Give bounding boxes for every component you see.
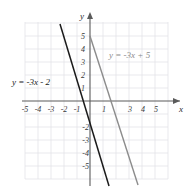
y-tick-4: 4 — [81, 45, 85, 54]
x-axis-label: x — [178, 104, 183, 114]
y-tick--4: -4 — [82, 149, 89, 158]
y-tick-3: 3 — [80, 58, 85, 67]
y-tick--2: -2 — [82, 123, 89, 132]
y-tick-1: 1 — [81, 84, 85, 93]
graph-canvas: x y -5 -4 -3 -2 -1 1 3 4 5 5 4 3 2 1 -2 … — [0, 0, 194, 192]
x-tick-3: 3 — [127, 105, 132, 114]
equation-label-gray-line: y = -3x + 5 — [108, 50, 151, 60]
y-tick--3: -3 — [82, 136, 89, 145]
x-tick--4: -4 — [35, 105, 42, 114]
y-tick-5: 5 — [81, 32, 85, 41]
x-tick--2: -2 — [61, 105, 68, 114]
figure-background — [0, 0, 194, 192]
x-tick--1: -1 — [74, 105, 81, 114]
x-tick-5: 5 — [154, 105, 158, 114]
x-tick--5: -5 — [22, 105, 29, 114]
x-tick-1: 1 — [102, 105, 106, 114]
equation-label-black-line: y = -3x - 2 — [11, 77, 51, 87]
x-tick--3: -3 — [48, 105, 55, 114]
x-tick-4: 4 — [141, 105, 145, 114]
coordinate-plane-figure: x y -5 -4 -3 -2 -1 1 3 4 5 5 4 3 2 1 -2 … — [0, 0, 194, 192]
y-tick--5: -5 — [82, 162, 89, 171]
y-axis-label: y — [79, 11, 84, 21]
y-tick-2: 2 — [81, 71, 85, 80]
